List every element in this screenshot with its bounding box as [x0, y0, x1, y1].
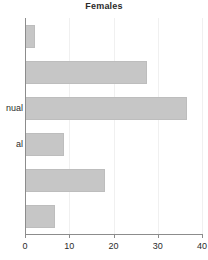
gridline-x-40: [202, 18, 203, 234]
x-tick-label: 20: [108, 241, 118, 251]
bar-row: [25, 54, 147, 90]
bar-row: [25, 126, 64, 162]
bar-row: [25, 162, 105, 198]
x-tick-label: 40: [197, 241, 207, 251]
bar-row: [25, 18, 35, 54]
y-category-label: nual: [6, 103, 23, 113]
x-tick-mark: [25, 234, 26, 238]
bar: [25, 169, 105, 192]
x-tick-mark: [69, 234, 70, 238]
y-category-label: al: [16, 139, 23, 149]
bar-row: [25, 198, 55, 234]
bar: [25, 133, 64, 156]
y-axis-line: [25, 18, 26, 234]
x-tick-label: 10: [64, 241, 74, 251]
gridline-x-30: [158, 18, 159, 234]
x-tick-mark: [114, 234, 115, 238]
bar: [25, 25, 35, 48]
bar: [25, 97, 187, 120]
gridline-x-20: [114, 18, 115, 234]
x-tick-mark: [202, 234, 203, 238]
bar-chart-figure: Females 010203040 nualal: [0, 0, 208, 260]
bar: [25, 205, 55, 228]
plot-area: [25, 18, 202, 234]
x-tick-label: 0: [22, 241, 27, 251]
x-tick-label: 30: [153, 241, 163, 251]
bar-row: [25, 90, 187, 126]
gridline-x-10: [69, 18, 70, 234]
bar: [25, 61, 147, 84]
chart-title: Females: [0, 1, 208, 11]
x-tick-mark: [158, 234, 159, 238]
